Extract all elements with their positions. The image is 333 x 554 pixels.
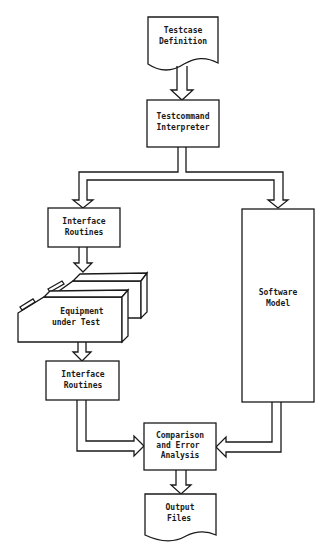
comparison-line3: Analysis (161, 450, 200, 460)
output-files-line2: Files (167, 513, 191, 523)
equipment-under-test-line2: under Test (52, 318, 100, 327)
arrow-interpreter-split (73, 147, 288, 208)
comparison-line1: Comparison (156, 430, 204, 440)
output-files-line1: Output (166, 503, 195, 512)
software-model-line2: Model (266, 299, 290, 308)
testcase-definition-line1: Testcase (164, 26, 203, 35)
node-testcommand-interpreter: Testcommand Interpreter (147, 100, 219, 147)
arrow-software-model-to-comparison (216, 402, 281, 457)
node-software-model: Software Model (242, 209, 314, 402)
software-model-line1: Software (259, 288, 298, 297)
node-equipment-under-test: Equipment under Test (18, 273, 147, 342)
arrow-testcase-to-interpreter (171, 66, 193, 100)
arrow-interface-to-equipment (74, 247, 92, 272)
arrow-equipment-to-interface (73, 342, 91, 361)
node-testcase-definition: Testcase Definition (148, 17, 218, 70)
node-interface-routines-bottom: Interface Routines (46, 361, 119, 400)
interface-routines-bottom-line2: Routines (64, 380, 103, 390)
flowchart-diagram: Testcase Definition Testcommand Interpre… (0, 0, 333, 554)
testcommand-interpreter-line1: Testcommand (157, 112, 210, 121)
node-comparison-error-analysis: Comparison and Error Analysis (144, 423, 216, 470)
testcase-definition-line2: Definition (159, 36, 207, 46)
node-output-files: Output Files (145, 494, 216, 541)
arrow-comparison-to-output (171, 470, 191, 494)
arrow-interface-to-comparison (77, 400, 144, 456)
node-interface-routines-top: Interface Routines (48, 208, 120, 247)
interface-routines-top-line1: Interface (62, 217, 106, 226)
interface-routines-top-line2: Routines (65, 227, 104, 237)
equipment-under-test-line1: Equipment (60, 306, 104, 316)
interface-routines-bottom-line1: Interface (61, 370, 105, 379)
comparison-line2: and Error (156, 441, 200, 450)
testcommand-interpreter-line2: Interpreter (157, 123, 210, 132)
